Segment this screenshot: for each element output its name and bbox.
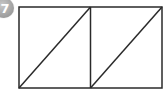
geometry-figure (0, 0, 164, 90)
diagonal-left-square (19, 7, 91, 88)
diagonal-right-square (91, 7, 163, 88)
